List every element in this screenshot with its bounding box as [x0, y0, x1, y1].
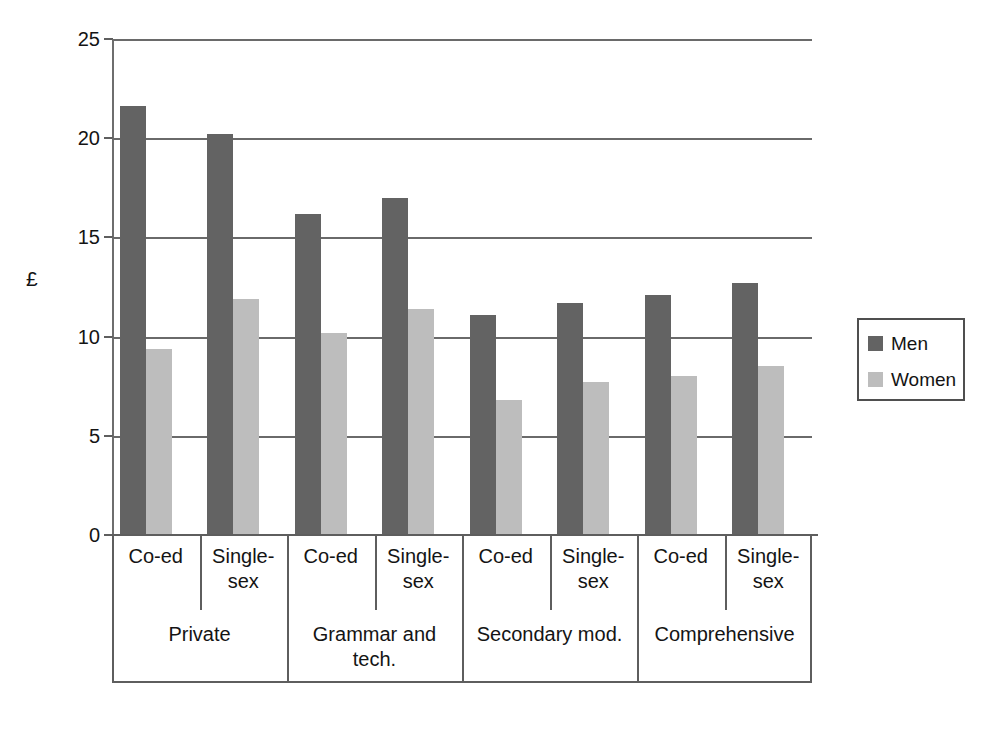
x-subcategory-label: Single-sex	[725, 544, 813, 594]
bar-men-5	[557, 303, 583, 535]
x-category-label: Secondary mod.	[462, 622, 637, 647]
legend-swatch-women-icon	[868, 372, 883, 387]
bar-women-6	[671, 376, 697, 535]
bar-women-5	[583, 382, 609, 535]
legend-label-women: Women	[891, 370, 956, 389]
legend-swatch-men-icon	[868, 336, 883, 351]
bar-women-4	[496, 400, 522, 535]
legend: Men Women	[857, 318, 965, 401]
x-subcategory-label: Co-ed	[287, 544, 375, 569]
x-axis-label-table: Co-edSingle-sexPrivateCo-edSingle-sexGra…	[112, 536, 812, 682]
y-tick-label: 15	[78, 227, 100, 247]
bar-women-7	[758, 366, 784, 535]
x-subcategory-label: Co-ed	[637, 544, 725, 569]
plot-area	[112, 39, 812, 535]
gridline-25	[112, 39, 812, 41]
bar-men-4	[470, 315, 496, 535]
bar-men-7	[732, 283, 758, 535]
x-category-label: Comprehensive	[637, 622, 812, 647]
x-category-label: Private	[112, 622, 287, 647]
x-subcategory-label: Single-sex	[200, 544, 288, 594]
legend-label-men: Men	[891, 334, 928, 353]
x-axis-label-table-bottom-border	[112, 681, 812, 683]
y-tick-label: 5	[89, 426, 100, 446]
bar-women-2	[321, 333, 347, 535]
bar-men-6	[645, 295, 671, 535]
x-subcategory-label: Co-ed	[112, 544, 200, 569]
bar-men-3	[382, 198, 408, 535]
bar-women-1	[233, 299, 259, 535]
bar-men-1	[207, 134, 233, 535]
bar-women-3	[408, 309, 434, 535]
x-subcategory-label: Single-sex	[550, 544, 638, 594]
bar-men-0	[120, 106, 146, 535]
bar-women-0	[146, 349, 172, 535]
x-category-label: Grammar andtech.	[287, 622, 462, 672]
x-subcategory-label: Co-ed	[462, 544, 550, 569]
bar-men-2	[295, 214, 321, 535]
legend-item-women: Women	[868, 368, 956, 390]
y-tick-label: 0	[89, 525, 100, 545]
y-tick-label: 10	[78, 327, 100, 347]
bar-chart-figure: £ 0510152025 Co-edSingle-sexPrivateCo-ed…	[0, 0, 985, 730]
y-tick-label: 25	[78, 29, 100, 49]
y-tick-label: 20	[78, 128, 100, 148]
y-axis-title: £	[26, 268, 38, 289]
x-subcategory-label: Single-sex	[375, 544, 463, 594]
legend-item-men: Men	[868, 332, 928, 354]
